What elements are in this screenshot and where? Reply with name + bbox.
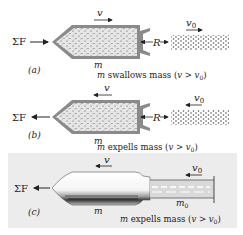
panel-b: ΣF v R v0 (b) m m expells mass (v > v0) — [12, 82, 229, 153]
panel-c: ΣF v v0 m0 (c) m m expells mass (v > v0) — [8, 153, 237, 228]
exhaust-stream — [150, 180, 214, 198]
panel-label: (a) — [28, 65, 41, 75]
mass-stream — [171, 110, 229, 125]
caption: m expells mass (v > v0) — [97, 142, 198, 153]
reaction-label: R — [152, 112, 161, 123]
panel-label: (c) — [28, 207, 41, 217]
mass-label: m — [94, 206, 103, 216]
variable-mass-diagram: ΣF v R v0 (a) m m swallows mass (v > v0)… — [0, 0, 243, 235]
caption: m swallows mass (v > v0) — [97, 70, 207, 81]
mass-label: m — [94, 60, 103, 70]
mass-stream — [171, 35, 229, 50]
panel-a: ΣF v R v0 (a) m m swallows mass (v > v0) — [12, 7, 229, 81]
force-label: ΣF — [12, 112, 26, 123]
velocity-label: v — [104, 82, 110, 93]
velocity-label: v — [104, 154, 110, 165]
rocket-body — [52, 172, 150, 205]
stream-velocity-label: v0 — [186, 17, 196, 30]
caption: m expells mass (v > v0) — [120, 214, 221, 225]
force-label: ΣF — [14, 183, 28, 194]
panel-label: (b) — [28, 130, 41, 140]
velocity-label: v — [97, 7, 103, 18]
reaction-label: R — [152, 37, 161, 48]
stream-velocity-label: v0 — [194, 92, 204, 105]
force-label: ΣF — [12, 36, 26, 47]
